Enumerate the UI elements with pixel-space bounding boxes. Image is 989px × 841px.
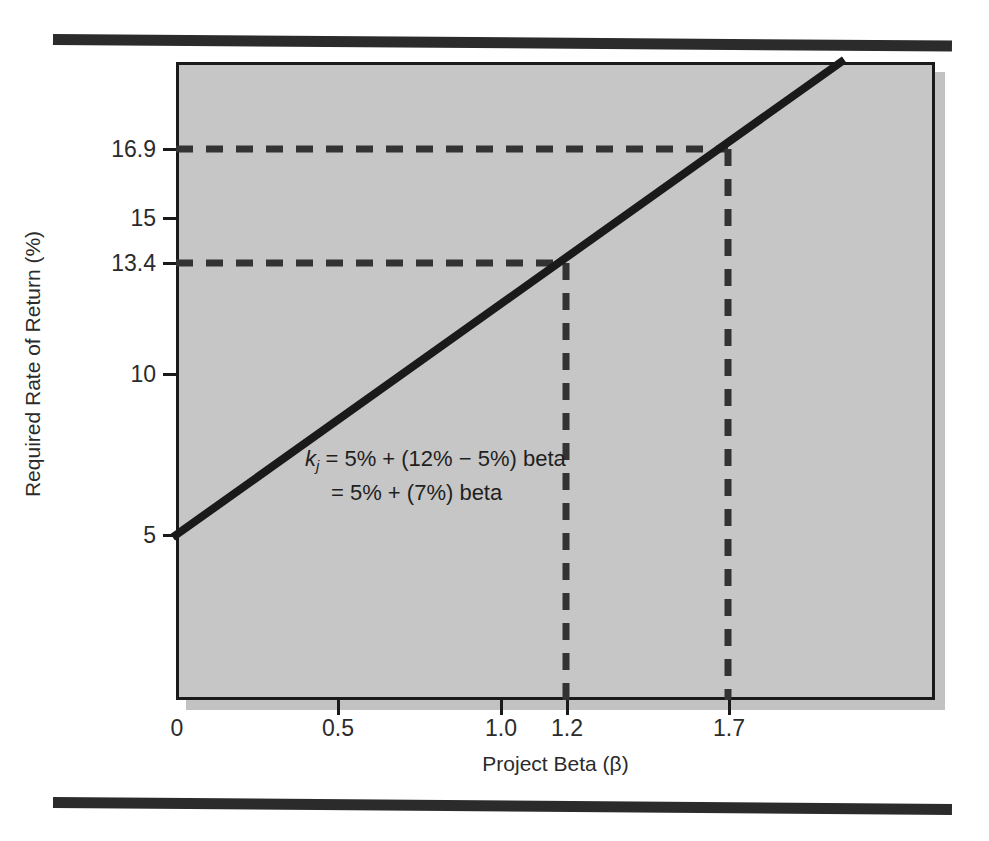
y-tick-mark-1: [163, 217, 177, 220]
x-tick-label-3: 1.2: [551, 715, 583, 742]
chart-plot-svg: [176, 62, 935, 700]
x-axis-title: Project Beta (β): [176, 752, 935, 776]
y-axis-title: Required Rate of Return (%): [21, 199, 45, 529]
capm-equation-line-2: = 5% + (7%) beta: [305, 477, 566, 508]
y-tick-mark-2: [163, 262, 177, 265]
x-tick-mark-2: [500, 700, 503, 715]
y-tick-mark-0: [163, 148, 177, 151]
x-tick-label-0: 0: [171, 715, 184, 742]
capm-symbol: k: [305, 446, 316, 471]
x-tick-label-4: 1.7: [713, 715, 745, 742]
security-market-line-chart: 16.9 15 13.4 10 5 Required Rate of Retur…: [0, 0, 989, 841]
capm-equation-annotation: kj = 5% + (12% − 5%) beta = 5% + (7%) be…: [305, 443, 566, 508]
x-tick-mark-3: [566, 700, 569, 715]
y-tick-mark-3: [163, 373, 177, 376]
x-tick-label-2: 1.0: [485, 715, 517, 742]
y-tick-label-1: 15: [130, 205, 156, 232]
y-tick-label-2: 13.4: [111, 250, 156, 277]
x-tick-mark-4: [728, 700, 731, 715]
y-tick-label-3: 10: [130, 361, 156, 388]
y-tick-label-0: 16.9: [111, 136, 156, 163]
y-tick-label-4: 5: [143, 522, 156, 549]
capm-equation-line-1: kj = 5% + (12% − 5%) beta: [305, 443, 566, 477]
x-tick-label-1: 0.5: [322, 715, 354, 742]
x-tick-mark-1: [337, 700, 340, 715]
capm-subscript: j: [316, 457, 319, 474]
capm-equation-line-1-text: = 5% + (12% − 5%) beta: [325, 446, 565, 471]
